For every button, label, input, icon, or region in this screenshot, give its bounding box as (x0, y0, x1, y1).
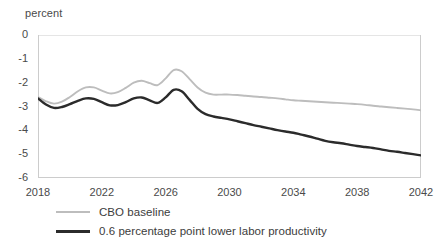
chart-svg (38, 35, 421, 178)
y-tick-label: -5 (2, 147, 28, 159)
x-tick-label: 2026 (143, 186, 189, 198)
legend-item-baseline: CBO baseline (56, 205, 327, 219)
legend-swatch-baseline (56, 211, 90, 213)
x-tick-label: 2038 (334, 186, 380, 198)
plot-area: 0-1-2-3-4-5-6 20182022202620302034203820… (38, 35, 421, 178)
y-tick-label: -4 (2, 123, 28, 135)
legend-item-lower-productivity: 0.6 percentage point lower labor product… (56, 224, 327, 238)
axes-group (38, 35, 421, 178)
chart-legend: CBO baseline 0.6 percentage point lower … (56, 205, 327, 238)
legend-label-lower-productivity: 0.6 percentage point lower labor product… (99, 225, 327, 237)
legend-label-baseline: CBO baseline (99, 206, 171, 218)
data-series-group (38, 69, 421, 155)
x-tick-label: 2030 (207, 186, 253, 198)
y-tick-label: -2 (2, 76, 28, 88)
x-tick-label: 2018 (15, 186, 61, 198)
legend-swatch-lower-productivity (56, 230, 90, 233)
y-axis-title: percent (25, 7, 62, 19)
y-tick-label: -1 (2, 52, 28, 64)
y-tick-label: -3 (2, 100, 28, 112)
x-tick-label: 2042 (398, 186, 439, 198)
chart-container: percent 0-1-2-3-4-5-6 201820222026203020… (0, 0, 439, 249)
series-line-cbo-baseline (38, 69, 421, 110)
x-tick-label: 2022 (79, 186, 125, 198)
y-tick-label: 0 (2, 28, 28, 40)
y-tick-label: -6 (2, 171, 28, 183)
x-tick-label: 2034 (270, 186, 316, 198)
series-line-lower-labor-productivity (38, 89, 421, 155)
